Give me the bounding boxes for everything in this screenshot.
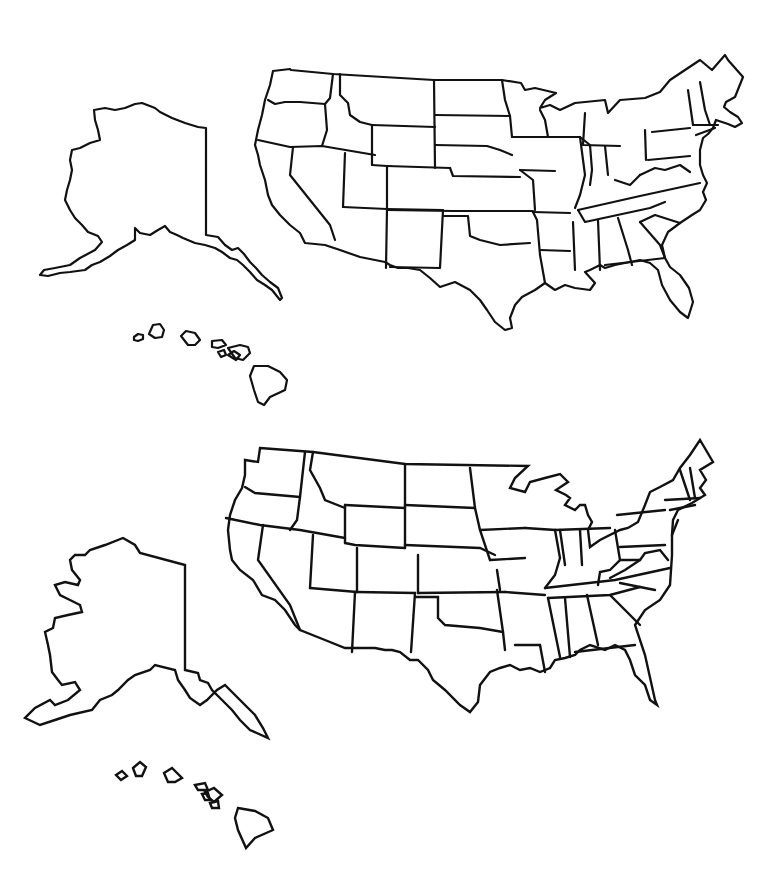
alaska-outline — [40, 103, 282, 300]
contiguous-us-outline — [255, 55, 743, 330]
hawaii-molokai-simplified — [164, 768, 182, 782]
state-borders-simplified — [226, 452, 700, 672]
hawaii-oahu — [149, 324, 164, 338]
us-blank-maps-canvas — [0, 0, 783, 885]
hawaii-kahoolawe-simplified — [202, 793, 210, 800]
state-borders-detailed — [258, 74, 718, 283]
hawaii-lanai — [218, 350, 226, 357]
hawaii-islands — [134, 324, 287, 405]
hawaii-big-island — [250, 366, 287, 405]
hawaii-islands-simplified — [116, 762, 273, 848]
hawaii-oahu-simplified — [133, 762, 146, 776]
us-map-simplified — [25, 440, 713, 848]
hawaii-kauai — [134, 334, 143, 341]
alaska-outline-simplified — [25, 538, 268, 738]
hawaii-molokini-simplified — [210, 801, 219, 808]
us-map-detailed — [40, 55, 743, 405]
hawaii-kauai-simplified — [116, 771, 127, 780]
hawaii-maui — [212, 340, 226, 348]
hawaii-molokai — [181, 331, 200, 345]
hawaii-big-island-simplified — [235, 808, 273, 848]
hawaii-lanai-simplified — [195, 783, 208, 790]
